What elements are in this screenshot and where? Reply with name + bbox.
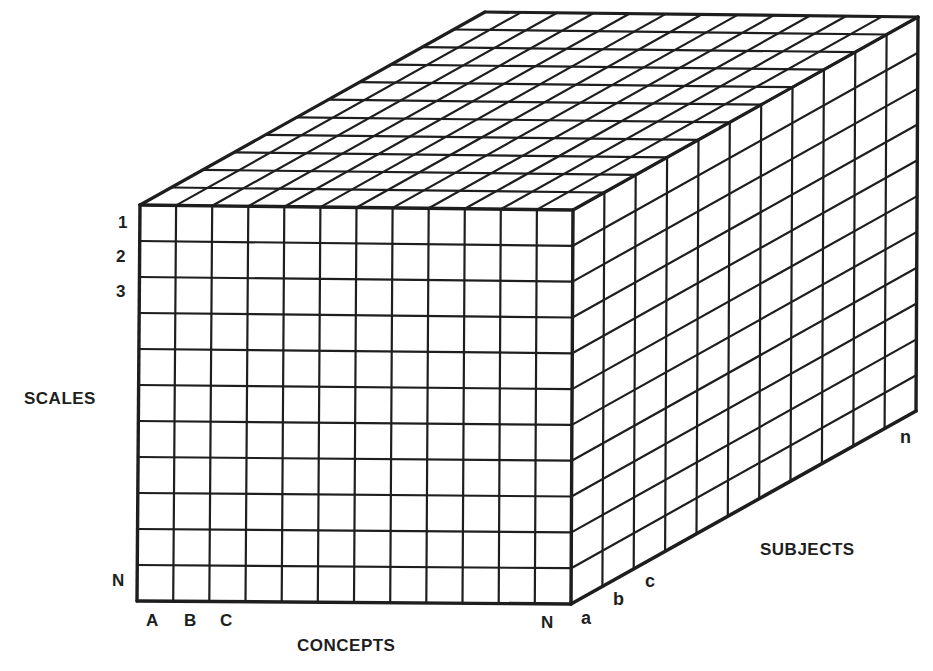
right-face-depth-line xyxy=(853,52,855,446)
right-face-depth-line xyxy=(728,122,730,516)
front-face-column-line xyxy=(209,206,212,602)
top-face-receding-line xyxy=(212,13,557,206)
right-face-depth-line xyxy=(885,35,887,429)
front-face-column-line xyxy=(282,207,285,602)
top-face-receding-line xyxy=(320,14,665,207)
front-face-column-line xyxy=(463,209,465,604)
subjects-axis-title: SUBJECTS xyxy=(760,541,855,558)
scale-tick-n: N xyxy=(112,572,124,589)
top-face-receding-line xyxy=(357,15,702,208)
top-face-receding-line xyxy=(429,15,774,208)
front-face-column-line xyxy=(137,205,140,601)
right-face-row-line xyxy=(572,196,917,389)
right-face-row-line xyxy=(573,89,918,282)
top-face-receding-line xyxy=(140,12,485,205)
subject-tick-n: n xyxy=(900,428,911,446)
concept-tick-a: A xyxy=(146,612,158,629)
scale-tick-1: 1 xyxy=(118,214,127,231)
right-face-row-line xyxy=(572,304,917,497)
top-face-receding-line xyxy=(501,16,846,209)
right-face-row-line xyxy=(572,268,917,461)
subject-tick-a: a xyxy=(581,609,591,627)
right-face-row-line xyxy=(573,17,918,210)
right-face-depth-line xyxy=(759,105,761,499)
top-face-receding-line xyxy=(465,16,810,209)
front-face-column-line xyxy=(535,210,537,604)
front-face-row-line xyxy=(137,601,571,604)
right-face-row-line xyxy=(572,160,917,353)
front-face-column-line xyxy=(426,208,428,603)
right-face-row-line xyxy=(573,53,918,246)
right-face-depth-line xyxy=(822,70,824,464)
scales-axis-title: SCALES xyxy=(24,390,96,407)
top-face-receding-line xyxy=(176,12,521,205)
scale-tick-3: 3 xyxy=(116,283,125,300)
front-face-column-line xyxy=(246,206,249,602)
concept-tick-c: C xyxy=(220,612,232,629)
top-face-receding-line xyxy=(537,17,882,210)
subject-tick-b: b xyxy=(613,590,624,608)
front-face-column-line xyxy=(318,207,321,602)
right-face-row-line xyxy=(571,411,916,604)
front-face-column-line xyxy=(390,208,392,603)
right-face-depth-line xyxy=(634,175,636,569)
right-face-row-line xyxy=(571,339,916,532)
concepts-axis-title: CONCEPTS xyxy=(297,637,395,654)
right-face-row-line xyxy=(573,125,918,318)
right-face-row-line xyxy=(572,232,917,425)
cube-grid xyxy=(0,0,933,671)
data-cube-diagram: SCALES 1 2 3 N A B C N CONCEPTS a b c n … xyxy=(0,0,933,671)
right-face-row-line xyxy=(571,375,916,568)
right-face-depth-line xyxy=(602,193,604,587)
top-face-receding-line xyxy=(284,14,629,207)
concept-tick-n: N xyxy=(541,614,553,631)
scale-tick-2: 2 xyxy=(116,248,125,265)
top-face-receding-line xyxy=(393,15,738,208)
top-face-receding-line xyxy=(248,13,593,206)
subject-tick-c: c xyxy=(645,572,655,590)
front-face-column-line xyxy=(354,208,357,603)
right-face-depth-line xyxy=(916,17,918,411)
front-face-column-line xyxy=(499,209,501,603)
front-face-column-line xyxy=(173,205,176,601)
concept-tick-b: B xyxy=(184,612,196,629)
right-face-depth-line xyxy=(791,87,793,481)
right-face-depth-line xyxy=(665,157,667,551)
right-face-depth-line xyxy=(697,140,699,534)
